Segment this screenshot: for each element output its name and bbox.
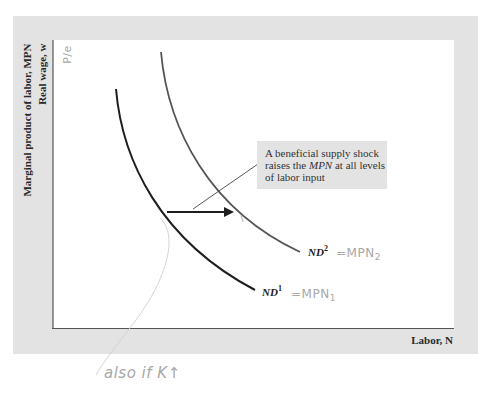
nd1-curve xyxy=(116,89,255,290)
x-axis-label: Labor, N xyxy=(411,334,453,346)
nd1-label: ND1 xyxy=(262,284,282,298)
y-axis-label-wage: Real wage, w xyxy=(35,43,50,196)
nd1-handwritten-note: =MPN1 xyxy=(291,287,336,303)
nd2-handwritten-note: =MPN2 xyxy=(336,246,381,262)
nd2-label: ND2 xyxy=(308,244,328,258)
y-axis-label-mpn: Marginal product of labor, MPN xyxy=(20,43,35,196)
handwritten-bottom-note: also if K↑ xyxy=(104,364,181,382)
y-axis-label: Marginal product of labor, MPN Real wage… xyxy=(20,40,50,200)
handwritten-stroke xyxy=(96,218,169,375)
handwritten-y-note: P/e xyxy=(61,45,74,64)
callout-box: A beneficial supply shock raises the MPN… xyxy=(257,141,387,189)
arrowhead-icon xyxy=(224,207,234,217)
callout-text-mpn: MPN xyxy=(309,159,332,171)
